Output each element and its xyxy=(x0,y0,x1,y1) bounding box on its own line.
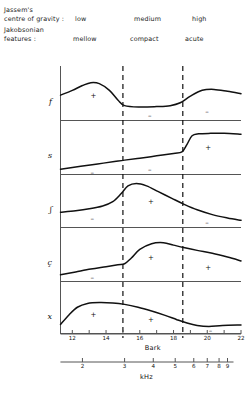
sign-ʃ-low: – xyxy=(91,216,95,223)
sign-s-high: + xyxy=(205,145,211,152)
sign-s-low: – xyxy=(91,170,95,177)
row-label-3: ç xyxy=(34,258,52,267)
bark-tick-label-5: 22 xyxy=(234,335,248,341)
bark-tick-label-0: 12 xyxy=(65,335,79,341)
row-label-1: s xyxy=(34,151,52,160)
khz-tick-label-1: 3 xyxy=(118,363,132,369)
row-label-2: ʃ xyxy=(34,205,52,214)
khz-tick-label-4: 6 xyxy=(187,363,201,369)
sign-f-medium: – xyxy=(148,113,152,120)
sign-f-high: – xyxy=(205,109,209,116)
sign-ç-low: – xyxy=(91,275,95,282)
sign-s-medium: – xyxy=(148,167,152,174)
bark-tick-label-2: 16 xyxy=(133,335,147,341)
khz-tick-label-3: 5 xyxy=(168,363,182,369)
bark-axis-name: Bark xyxy=(145,344,161,352)
row-label-0: f xyxy=(34,97,52,106)
figure-fricative-spectra: Jassem's centre of gravity : low medium … xyxy=(0,0,249,396)
khz-tick-label-2: 4 xyxy=(146,363,160,369)
row-label-4: x xyxy=(34,312,52,321)
khz-tick-label-0: 2 xyxy=(75,363,89,369)
sign-f-low: + xyxy=(91,93,97,100)
sign-x-low: + xyxy=(91,312,97,319)
curve-f xyxy=(61,83,242,108)
sign-x-high: – xyxy=(209,328,213,335)
bark-tick-label-3: 18 xyxy=(167,335,181,341)
sign-ç-medium: + xyxy=(148,255,154,262)
bark-tick-label-4: 20 xyxy=(200,335,214,341)
curve-s xyxy=(61,133,242,169)
khz-tick-label-7: 9 xyxy=(221,363,235,369)
sign-ʃ-medium: + xyxy=(148,199,154,206)
bark-tick-label-1: 14 xyxy=(99,335,113,341)
sign-x-medium: + xyxy=(148,317,154,324)
sign-ʃ-high: – xyxy=(205,220,209,227)
khz-axis-name: kHz xyxy=(140,373,153,381)
sign-ç-high: + xyxy=(205,265,211,272)
